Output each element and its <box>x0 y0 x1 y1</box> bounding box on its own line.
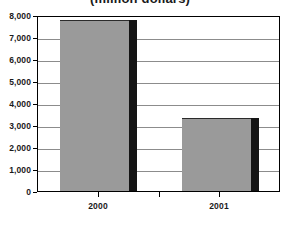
bar-shadow-edge <box>251 118 259 191</box>
y-axis-tick: 7,000 <box>9 32 37 44</box>
x-axis: 20002001 <box>37 192 280 218</box>
y-axis: 01,0002,0003,0004,0005,0006,0007,0008,00… <box>0 16 37 192</box>
y-axis-tick: 1,000 <box>9 164 37 176</box>
y-axis-tick-label: 7,000 <box>9 33 31 43</box>
bar-shadow-edge <box>129 20 137 191</box>
y-axis-tick-label: 8,000 <box>9 11 31 21</box>
y-axis-tick-label: 6,000 <box>9 55 31 65</box>
y-axis-tick-label: 4,000 <box>9 99 31 109</box>
x-axis-label: 2001 <box>209 201 229 211</box>
x-axis-tick-mark <box>159 192 160 197</box>
x-axis-tick-mark <box>98 192 99 197</box>
y-axis-tick: 8,000 <box>9 10 37 22</box>
bar <box>182 118 259 191</box>
bar <box>60 20 137 191</box>
y-axis-tick-label: 2,000 <box>9 143 31 153</box>
y-axis-tick: 3,000 <box>9 120 37 132</box>
y-axis-tick-label: 3,000 <box>9 121 31 131</box>
y-axis-tick-label: 1,000 <box>9 165 31 175</box>
y-axis-tick: 0 <box>26 186 37 198</box>
bar-series <box>38 17 279 191</box>
chart-title: (million dollars) <box>0 0 280 6</box>
y-axis-tick-label: 0 <box>26 187 31 197</box>
chart-page: (million dollars) 01,0002,0003,0004,0005… <box>0 0 286 225</box>
y-axis-tick: 5,000 <box>9 76 37 88</box>
bar-top-edge <box>182 118 259 119</box>
y-axis-tick: 6,000 <box>9 54 37 66</box>
y-axis-tick-label: 5,000 <box>9 77 31 87</box>
y-axis-tick: 2,000 <box>9 142 37 154</box>
x-axis-label: 2000 <box>88 201 108 211</box>
bar-top-edge <box>60 20 137 21</box>
plot-area <box>37 16 280 192</box>
y-axis-tick: 4,000 <box>9 98 37 110</box>
x-axis-tick-mark <box>219 192 220 197</box>
